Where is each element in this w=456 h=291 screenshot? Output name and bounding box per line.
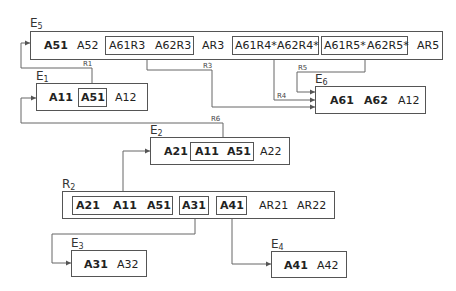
attr: A61 xyxy=(330,94,354,107)
relationship-label-r2: R2 xyxy=(62,178,75,192)
rel-label-r1: R1 xyxy=(83,60,92,68)
rel-label-r4: R4 xyxy=(277,92,286,100)
attr: A51 xyxy=(227,145,251,158)
attr: A31 xyxy=(182,199,206,212)
entity-label-e4: E4 xyxy=(271,238,284,252)
entity-label-e1: E1 xyxy=(36,70,49,84)
attr: A62R4* xyxy=(277,39,319,52)
entity-e6[interactable]: A61 A62 A12 xyxy=(315,86,426,114)
attr: A32 xyxy=(117,258,139,271)
attr: A22 xyxy=(260,145,282,158)
attr: A21 xyxy=(164,145,188,158)
attr: A62R5* xyxy=(367,39,409,52)
entity-label-e2: E2 xyxy=(150,124,163,138)
attr: A21 xyxy=(76,199,100,212)
entity-e1[interactable]: A11 A51 A12 xyxy=(36,83,148,111)
attr: A51 xyxy=(147,199,171,212)
entity-label-e6: E6 xyxy=(315,73,328,87)
rel-label-r3: R3 xyxy=(203,62,212,70)
entity-label-e5: E5 xyxy=(30,17,43,31)
attr: A51 xyxy=(81,91,105,104)
attr: AR5 xyxy=(417,39,439,52)
attr: A61R5* xyxy=(324,39,366,52)
attr: A41 xyxy=(220,199,244,212)
attr: A11 xyxy=(113,199,137,212)
attr: A61R3 xyxy=(109,39,145,52)
entity-e2[interactable]: A21 A11 A51 A22 xyxy=(150,137,290,165)
attr: A12 xyxy=(398,94,420,107)
attr: A62 xyxy=(364,94,388,107)
attr: AR22 xyxy=(297,199,326,212)
attr: A31 xyxy=(84,258,108,271)
rel-label-r5: R5 xyxy=(298,64,307,72)
entity-e5[interactable]: A51 A52 A61R3 A62R3 AR3 A61R4* A62R4* A6… xyxy=(30,31,443,60)
attr: AR3 xyxy=(202,39,224,52)
attr: A11 xyxy=(195,145,219,158)
rel-label-r6: R6 xyxy=(211,115,220,123)
attr: A42 xyxy=(317,259,339,272)
entity-e4[interactable]: A41 A42 xyxy=(271,251,347,278)
entity-label-e3: E3 xyxy=(71,237,84,251)
attr: AR21 xyxy=(259,199,288,212)
attr: A51 xyxy=(44,39,68,52)
attr: A11 xyxy=(49,91,73,104)
attr: A62R3 xyxy=(155,39,191,52)
relationship-r2[interactable]: A21 A11 A51 A31 A41 AR21 AR22 xyxy=(62,191,335,219)
attr: A52 xyxy=(77,39,99,52)
attr: A41 xyxy=(284,259,308,272)
entity-e3[interactable]: A31 A32 xyxy=(71,250,147,277)
attr: A61R4* xyxy=(235,39,277,52)
attr: A12 xyxy=(115,91,137,104)
